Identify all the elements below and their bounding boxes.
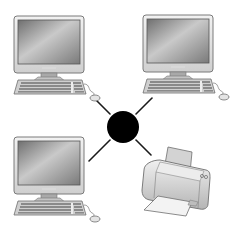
computer-bottom-left-icon: [14, 137, 100, 222]
computer-top-left-icon: [14, 16, 100, 101]
computer-top-right-icon: [143, 15, 229, 100]
diagram-canvas: [0, 0, 246, 234]
link-top-right: [136, 98, 152, 114]
link-bottom-left: [89, 140, 110, 161]
link-top-left: [97, 101, 110, 114]
link-bottom-right: [136, 140, 151, 155]
network-diagram: [0, 0, 246, 234]
printer-icon: [142, 147, 210, 216]
network-hub-icon: [107, 111, 139, 143]
